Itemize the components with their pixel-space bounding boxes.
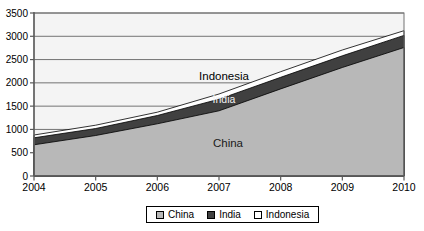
- chart-svg: 0500100015002000250030003500200420052006…: [0, 0, 424, 202]
- x-axis-label: 2004: [22, 181, 46, 193]
- chart-legend: China India Indonesia: [146, 206, 319, 223]
- y-axis-label: 1500: [6, 101, 29, 112]
- series-label-china: China: [213, 137, 244, 149]
- legend-label-indonesia: Indonesia: [266, 209, 309, 220]
- legend-item-china: China: [156, 209, 194, 220]
- y-axis-label: 500: [11, 147, 28, 158]
- series-label-indonesia: Indonesia: [199, 70, 249, 82]
- x-axis-label: 2009: [331, 181, 355, 193]
- series-label-india: India: [213, 93, 236, 105]
- china-swatch-icon: [156, 211, 164, 219]
- x-axis-label: 2008: [269, 181, 293, 193]
- y-axis-label: 3000: [6, 31, 29, 42]
- y-axis-label: 0: [22, 171, 28, 182]
- legend-label-china: China: [168, 209, 194, 220]
- stacked-area-chart: 0500100015002000250030003500200420052006…: [0, 0, 424, 231]
- x-axis-label: 2006: [146, 181, 170, 193]
- indonesia-swatch-icon: [254, 211, 262, 219]
- y-axis-label: 2000: [6, 77, 29, 88]
- legend-item-india: India: [207, 209, 241, 220]
- x-axis-label: 2010: [392, 181, 416, 193]
- x-axis-label: 2007: [207, 181, 231, 193]
- india-swatch-icon: [207, 211, 215, 219]
- y-axis-label: 3500: [6, 8, 29, 19]
- legend-item-indonesia: Indonesia: [254, 209, 309, 220]
- y-axis-label: 1000: [6, 124, 29, 135]
- legend-label-india: India: [219, 209, 241, 220]
- y-axis-label: 2500: [6, 54, 29, 65]
- x-axis-label: 2005: [84, 181, 108, 193]
